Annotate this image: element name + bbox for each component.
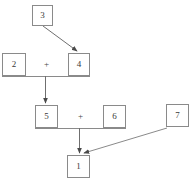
node-box-3[interactable]: 3 — [32, 5, 53, 26]
operator-plus-mid: + — [75, 112, 86, 121]
node-box-7[interactable]: 7 — [166, 104, 189, 127]
node-box-1[interactable]: 1 — [67, 155, 90, 178]
node-label-2: 2 — [12, 60, 17, 69]
diagram-edges-layer — [0, 0, 192, 192]
node-label-6: 6 — [112, 112, 117, 121]
node-label-3: 3 — [40, 11, 45, 20]
operator-plus-top: + — [41, 60, 52, 69]
node-box-6[interactable]: 6 — [103, 105, 126, 128]
arrow-node3-to-node4 — [43, 26, 77, 51]
node-box-2[interactable]: 2 — [2, 53, 26, 76]
node-label-4: 4 — [77, 60, 82, 69]
node-box-4[interactable]: 4 — [68, 53, 90, 76]
node-label-1: 1 — [76, 162, 81, 171]
node-label-5: 5 — [44, 112, 49, 121]
node-label-7: 7 — [175, 111, 180, 120]
diagram-canvas: 3 2 4 5 6 7 1 + + — [0, 0, 192, 192]
node-box-5[interactable]: 5 — [35, 105, 58, 128]
arrow-node7-to-node1 — [84, 128, 167, 153]
